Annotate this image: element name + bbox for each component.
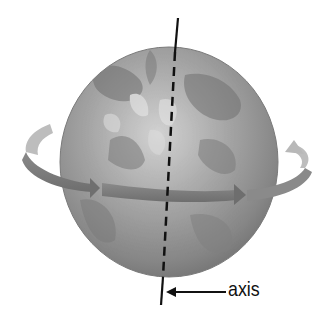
- earth-rotation-diagram: axis: [0, 0, 324, 327]
- axis-label: axis: [228, 277, 260, 301]
- rotation-arrow-back-left: [26, 124, 53, 155]
- label-pointer-arrow: [166, 287, 226, 297]
- rotation-arrowhead-back: [285, 140, 304, 154]
- diagram-canvas: [0, 0, 324, 327]
